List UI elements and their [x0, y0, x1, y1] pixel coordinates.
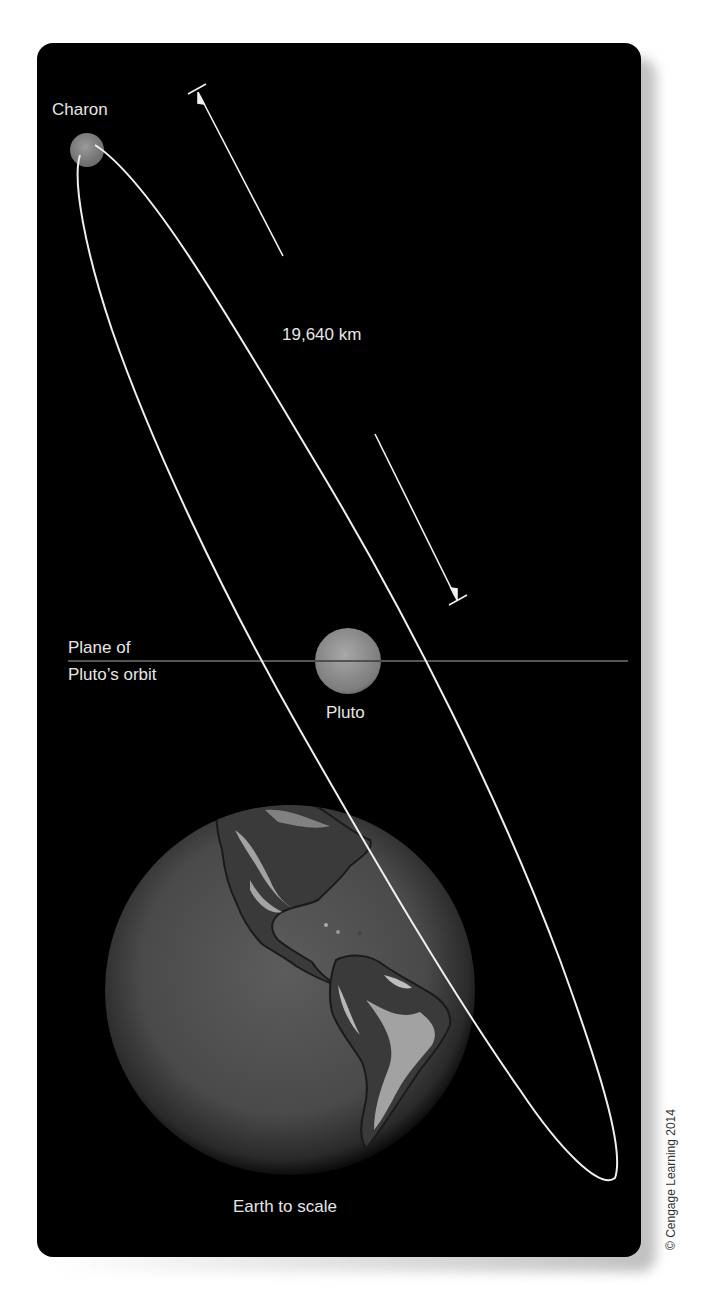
earth-globe-icon [105, 793, 475, 1175]
copyright-notice: © Cengage Learning 2014 [664, 1109, 678, 1250]
pluto-sphere-icon [315, 628, 381, 694]
plane-label-line1: Plane of [68, 638, 130, 658]
pluto-label: Pluto [326, 703, 365, 723]
charon-label: Charon [52, 100, 108, 120]
plane-label-line2: Pluto’s orbit [68, 665, 157, 685]
earth-label: Earth to scale [233, 1197, 337, 1217]
charon-sphere-icon [70, 133, 104, 167]
distance-label: 19,640 km [282, 325, 361, 345]
